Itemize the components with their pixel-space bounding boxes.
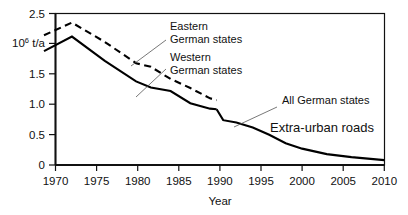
x-axis-title: Year <box>208 195 231 207</box>
annotation-all-german-states: All German states <box>282 94 370 106</box>
y-axis-unit-label: 106 t/a <box>12 36 46 50</box>
annotation-extra-urban-roads: Extra-urban roads <box>270 120 375 135</box>
y-tick-label-0-5: 0.5 <box>29 129 45 141</box>
annotation-eastern-line1: Eastern <box>170 20 208 32</box>
x-tick-label-1980: 1980 <box>125 175 151 187</box>
y-tick-label-1-5: 1.5 <box>29 68 45 80</box>
y-tick-label-0: 0 <box>39 159 45 171</box>
leader-line-eastern <box>131 40 166 66</box>
unit-mantissa: 10 <box>12 37 25 49</box>
x-tick-label-1985: 1985 <box>166 175 192 187</box>
x-tick-label-2010: 2010 <box>372 175 398 187</box>
x-tick-label-2000: 2000 <box>289 175 315 187</box>
y-tick-label-2-5: 2.5 <box>29 8 45 20</box>
annotation-western-line1: Western <box>170 51 211 63</box>
x-tick-label-1970: 1970 <box>43 175 69 187</box>
x-tick-label-1975: 1975 <box>84 175 110 187</box>
x-tick-label-2005: 2005 <box>330 175 356 187</box>
y-tick-label-1-0: 1.0 <box>29 98 45 110</box>
annotation-eastern-line2: German states <box>170 33 243 45</box>
x-tick-label-1990: 1990 <box>207 175 233 187</box>
annotation-western-line2: German states <box>170 64 243 76</box>
x-tick-label-1995: 1995 <box>248 175 274 187</box>
chart-container: 0 0.5 1.0 1.5 2.5 106 t/a 1970 1975 1980… <box>0 0 408 215</box>
emissions-line-chart: 0 0.5 1.0 1.5 2.5 106 t/a 1970 1975 1980… <box>0 0 408 215</box>
unit-suffix: t/a <box>29 37 46 49</box>
